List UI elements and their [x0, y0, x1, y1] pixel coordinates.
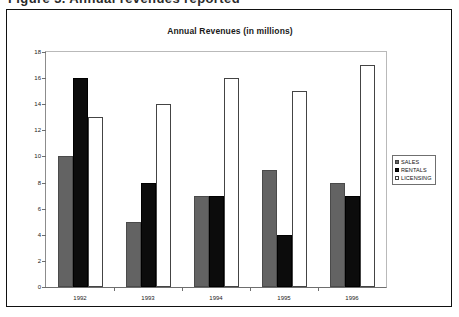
- x-axis-tick: [114, 287, 115, 291]
- bar-licensing-1994: [224, 78, 239, 287]
- bar-rentals-1992: [73, 78, 88, 287]
- plot-area: 024681012141618 19921993199419951996: [45, 51, 387, 288]
- chart-legend: SALESRENTALSLICENSING: [392, 155, 436, 185]
- x-axis-tick: [182, 287, 183, 291]
- x-axis-tick-label: 1994: [209, 295, 222, 301]
- bar-licensing-1996: [360, 65, 375, 287]
- x-axis-tick-label: 1996: [345, 295, 358, 301]
- y-axis-tick: [42, 209, 46, 210]
- legend-item-label: LICENSING: [401, 174, 432, 182]
- y-axis-tick: [42, 156, 46, 157]
- x-axis-tick-label: 1993: [141, 295, 154, 301]
- bar-sales-1994: [194, 196, 209, 287]
- legend-swatch-icon: [395, 176, 399, 180]
- y-axis-tick-label: 14: [34, 101, 41, 107]
- x-axis-tick-label: 1992: [73, 295, 86, 301]
- bar-licensing-1992: [88, 117, 103, 287]
- y-axis-tick-label: 16: [34, 75, 41, 81]
- legend-item-label: RENTALS: [401, 166, 427, 174]
- y-axis-tick: [42, 261, 46, 262]
- legend-swatch-icon: [395, 160, 399, 164]
- bar-sales-1992: [58, 156, 73, 287]
- bar-sales-1993: [126, 222, 141, 287]
- legend-item-licensing: LICENSING: [395, 174, 432, 182]
- chart-title: Annual Revenues (in millions): [7, 26, 453, 36]
- bar-rentals-1994: [209, 196, 224, 287]
- y-axis-tick-label: 2: [38, 258, 41, 264]
- y-axis-tick: [42, 130, 46, 131]
- bar-sales-1996: [330, 183, 345, 287]
- clipped-header-text-strip: Figure 3. Annual revenues reported: [0, 0, 459, 7]
- x-axis-tick: [250, 287, 251, 291]
- bar-licensing-1995: [292, 91, 307, 287]
- bar-rentals-1993: [141, 183, 156, 287]
- clipped-header-label: Figure 3. Annual revenues reported: [8, 0, 240, 6]
- bar-rentals-1995: [277, 235, 292, 287]
- legend-swatch-icon: [395, 168, 399, 172]
- x-axis-tick-label: 1995: [277, 295, 290, 301]
- bar-sales-1995: [262, 170, 277, 288]
- legend-item-label: SALES: [401, 158, 419, 166]
- y-axis-tick-label: 12: [34, 127, 41, 133]
- y-axis-tick-label: 18: [34, 49, 41, 55]
- x-axis-tick: [318, 287, 319, 291]
- bar-rentals-1996: [345, 196, 360, 287]
- chart-frame: Annual Revenues (in millions) 0246810121…: [6, 9, 452, 307]
- y-axis-tick-label: 10: [34, 153, 41, 159]
- y-axis-tick-label: 0: [38, 284, 41, 290]
- y-axis-tick-label: 6: [38, 206, 41, 212]
- y-axis-tick: [42, 287, 46, 288]
- y-axis-tick: [42, 183, 46, 184]
- bar-licensing-1993: [156, 104, 171, 287]
- legend-item-sales: SALES: [395, 158, 432, 166]
- y-axis-tick: [42, 52, 46, 53]
- legend-item-rentals: RENTALS: [395, 166, 432, 174]
- y-axis-tick-label: 4: [38, 232, 41, 238]
- y-axis-tick-label: 8: [38, 180, 41, 186]
- y-axis-tick: [42, 235, 46, 236]
- y-axis-tick: [42, 104, 46, 105]
- y-axis-tick: [42, 78, 46, 79]
